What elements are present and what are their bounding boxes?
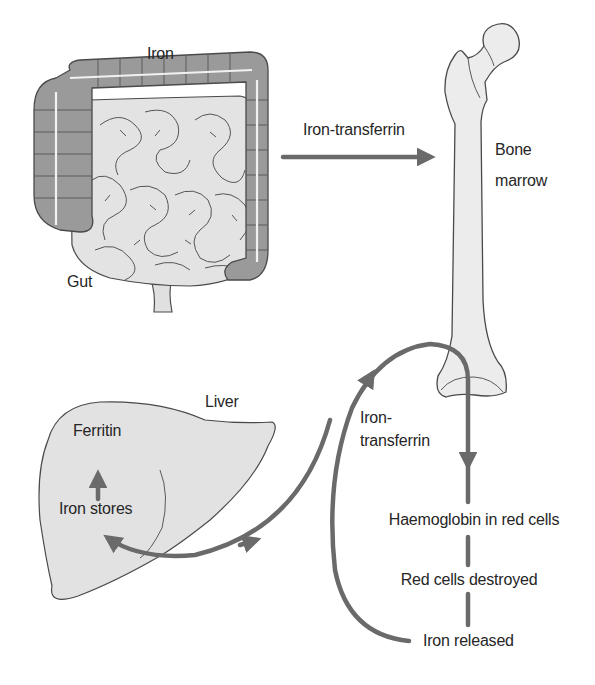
iron-transferrin-loop-label-line1: Iron- [360,408,392,427]
gut-label: Gut [67,272,92,291]
iron-label: Iron [147,44,174,63]
iron-cycle-diagram: Iron Gut Iron-transferrin Bone marrow Li… [0,0,595,685]
liver-label: Liver [205,392,239,411]
iron-transferrin-top-label: Iron-transferrin [303,120,405,139]
bone-marrow-label-line2: marrow [495,171,547,190]
iron-transferrin-loop-label-line2: transferrin [360,431,430,450]
femur-bone-icon [437,24,519,397]
red-cells-destroyed-label: Red cells destroyed [401,570,538,589]
haemoglobin-label: Haemoglobin in red cells [389,510,559,529]
ferritin-label: Ferritin [73,421,121,440]
iron-released-label: Iron released [423,631,514,650]
bone-marrow-label-line1: Bone [495,140,532,159]
iron-stores-label: Iron stores [59,499,132,518]
